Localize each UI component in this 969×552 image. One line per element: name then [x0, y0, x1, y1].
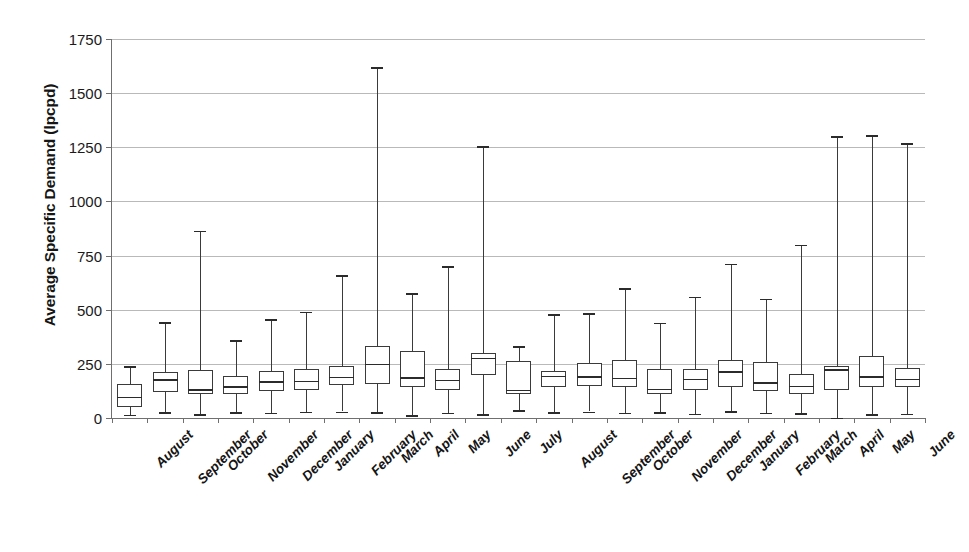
- x-tick-mark-16: [678, 418, 679, 423]
- box-plot-figure: Average Specific Demand (lpcpd) 02505007…: [0, 0, 969, 552]
- x-tick-mark-13: [572, 418, 573, 423]
- y-tick-label-1500: 1500: [42, 85, 102, 102]
- median-line: [895, 379, 920, 380]
- x-tick-mark-8: [395, 418, 396, 423]
- x-tick-label-2: October: [225, 427, 272, 474]
- y-tick-label-1750: 1750: [42, 31, 102, 48]
- x-tick-label-7: March: [398, 427, 437, 466]
- x-tick-mark-20: [819, 418, 820, 423]
- x-tick-label-19: March: [822, 427, 861, 466]
- x-tick-mark-9: [430, 418, 431, 423]
- x-tick-mark-5: [289, 418, 290, 423]
- x-tick-mark-18: [748, 418, 749, 423]
- x-tick-mark-4: [253, 418, 254, 423]
- x-tick-mark-1: [147, 418, 148, 423]
- x-tick-label-4: December: [299, 427, 356, 484]
- x-tick-mark-0: [112, 418, 113, 423]
- x-tick-mark-12: [536, 418, 537, 423]
- lower-whisker-cap: [901, 414, 913, 416]
- plot-area: [112, 39, 925, 418]
- x-tick-label-18: February: [792, 427, 843, 478]
- x-tick-label-11: July: [535, 427, 565, 457]
- x-tick-label-16: December: [723, 427, 780, 484]
- lower-whisker: [907, 387, 908, 414]
- upper-whisker: [907, 143, 908, 368]
- x-tick-label-17: January: [755, 427, 802, 474]
- x-tick-mark-11: [501, 418, 502, 423]
- x-tick-label-10: June: [501, 427, 534, 460]
- y-tick-label-1000: 1000: [42, 193, 102, 210]
- x-tick-label-22: June: [926, 427, 959, 460]
- x-tick-mark-22: [890, 418, 891, 423]
- x-tick-label-14: October: [649, 427, 696, 474]
- y-tick-label-500: 500: [42, 301, 102, 318]
- box-plot-22-june[interactable]: [112, 39, 925, 418]
- x-tick-mark-10: [465, 418, 466, 423]
- y-tick-label-1250: 1250: [42, 139, 102, 156]
- gridline-0: [112, 418, 925, 419]
- x-tick-label-6: February: [368, 427, 419, 478]
- x-tick-label-20: April: [855, 427, 887, 459]
- x-tick-label-21: May: [889, 427, 918, 456]
- x-tick-mark-17: [713, 418, 714, 423]
- x-tick-mark-14: [607, 418, 608, 423]
- x-tick-mark-6: [324, 418, 325, 423]
- x-tick-label-3: November: [264, 427, 321, 484]
- upper-whisker-cap: [901, 143, 913, 145]
- x-tick-mark-3: [218, 418, 219, 423]
- x-tick-label-5: January: [331, 427, 378, 474]
- x-tick-mark-23: [925, 418, 926, 423]
- y-tick-label-250: 250: [42, 355, 102, 372]
- box-iqr: [895, 368, 920, 387]
- y-tick-label-750: 750: [42, 247, 102, 264]
- x-tick-mark-2: [183, 418, 184, 423]
- x-tick-label-9: May: [464, 427, 493, 456]
- x-tick-label-12: August: [576, 427, 619, 470]
- x-tick-label-13: September: [619, 427, 679, 487]
- x-tick-mark-21: [854, 418, 855, 423]
- x-tick-label-0: August: [152, 427, 195, 470]
- x-tick-mark-7: [359, 418, 360, 423]
- x-tick-mark-15: [642, 418, 643, 423]
- y-tick-label-0: 0: [42, 410, 102, 427]
- x-tick-label-15: November: [688, 427, 745, 484]
- x-tick-label-1: September: [194, 427, 254, 487]
- x-tick-mark-19: [784, 418, 785, 423]
- x-tick-label-8: April: [430, 427, 462, 459]
